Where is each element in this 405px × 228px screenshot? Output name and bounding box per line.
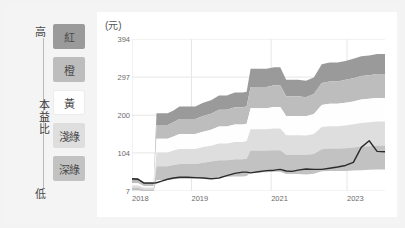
- y-axis-tick-label: 200: [104, 111, 130, 120]
- legend-high-label: 高: [29, 26, 51, 38]
- legend-band-chip-lightgreen[interactable]: 淺綠: [53, 123, 85, 148]
- x-axis-tick-label: 2018: [132, 194, 149, 203]
- x-axis-tick-label: 2021: [271, 194, 288, 203]
- y-axis-tick-label: 104: [104, 148, 130, 157]
- x-axis-tick-label: 2019: [192, 194, 209, 203]
- y-axis-tick-label: 394: [104, 35, 130, 44]
- legend-axis-title: 本益比: [28, 94, 50, 140]
- legend-band-chip-darkgreen[interactable]: 深綠: [53, 156, 85, 181]
- pe-river-chart-card: 高 低 本益比 紅 橙 黃 淺綠 深綠 (元) 3942972001047 20…: [5, 4, 400, 224]
- legend-low-label: 低: [29, 188, 51, 200]
- y-axis-tick-label: 7: [104, 187, 130, 196]
- chart-panel: (元) 3942972001047 2018201920212023: [97, 12, 397, 217]
- legend-band-chip-orange[interactable]: 橙: [53, 57, 85, 82]
- x-axis-tick-labels: 2018201920212023: [132, 194, 388, 208]
- pe-river-svg: [132, 39, 385, 191]
- x-axis-tick-label: 2023: [347, 194, 364, 203]
- legend-band-chip-red[interactable]: 紅: [53, 24, 85, 49]
- y-axis-tick-labels: 3942972001047: [99, 39, 130, 191]
- screenshot-root: 高 低 本益比 紅 橙 黃 淺綠 深綠 (元) 3942972001047 20…: [0, 0, 405, 228]
- y-axis-tick-label: 297: [104, 73, 130, 82]
- y-axis-unit-label: (元): [105, 17, 122, 32]
- legend-band-chip-yellow[interactable]: 黃: [53, 90, 85, 115]
- pe-band-legend: 高 低 本益比 紅 橙 黃 淺綠 深綠: [15, 12, 90, 217]
- plot-area: [132, 39, 385, 191]
